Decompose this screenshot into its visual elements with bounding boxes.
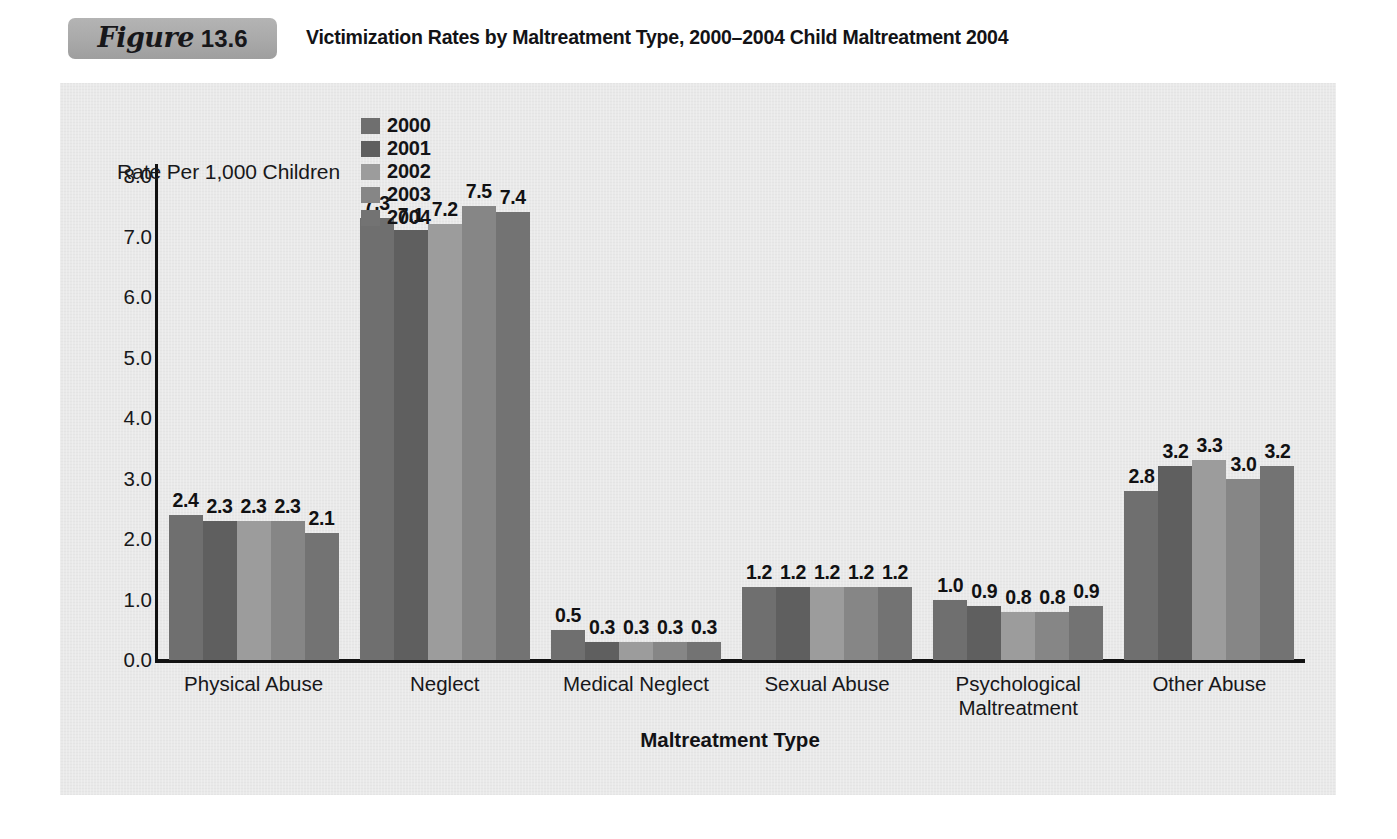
x-category-label-line: Other Abuse — [1152, 672, 1266, 695]
bar-2000-other-abuse[interactable]: 2.8 — [1124, 176, 1158, 660]
legend-item-2003[interactable]: 2003 — [361, 183, 431, 206]
bar-rect — [1124, 491, 1158, 660]
legend-item-2004[interactable]: 2004 — [361, 206, 431, 229]
legend-items: 20002001200220032004 — [361, 114, 450, 229]
bar-rect — [1035, 612, 1069, 660]
chart-panel: Rate Per 1,000 Children 2000200120022003… — [60, 83, 1336, 795]
bar-rect — [1192, 460, 1226, 660]
bar-2004-neglect[interactable]: 7.4 — [496, 176, 530, 660]
legend-item-2001[interactable]: 2001 — [361, 137, 431, 160]
x-category-label-line: Sexual Abuse — [764, 672, 889, 695]
bar-value-label: 2.4 — [173, 489, 199, 512]
legend-label: 2000 — [387, 114, 431, 137]
bar-2001-physical-abuse[interactable]: 2.3 — [203, 176, 237, 660]
bar-rect — [271, 521, 305, 660]
bar-2003-psychological-maltreatment[interactable]: 0.8 — [1035, 176, 1069, 660]
bar-rect — [496, 212, 530, 660]
legend-label: 2003 — [387, 183, 431, 206]
bar-rect — [1001, 612, 1035, 660]
x-category-label-line: Neglect — [410, 672, 480, 695]
bar-rect — [653, 642, 687, 660]
bar-value-label: 1.2 — [746, 561, 772, 584]
bar-rect — [428, 224, 462, 660]
x-category-label-line: Physical Abuse — [184, 672, 323, 695]
bar-2001-psychological-maltreatment[interactable]: 0.9 — [967, 176, 1001, 660]
bar-value-label: 2.3 — [207, 495, 233, 518]
bar-2004-psychological-maltreatment[interactable]: 0.9 — [1069, 176, 1103, 660]
legend-swatch-icon — [361, 164, 380, 180]
bar-2003-medical-neglect[interactable]: 0.3 — [653, 176, 687, 660]
figure-word-label: Figure — [97, 22, 193, 53]
bar-2001-medical-neglect[interactable]: 0.3 — [585, 176, 619, 660]
bar-rect — [203, 521, 237, 660]
bar-2003-sexual-abuse[interactable]: 1.2 — [844, 176, 878, 660]
bar-value-label: 0.8 — [1005, 586, 1031, 609]
bar-2004-other-abuse[interactable]: 3.2 — [1260, 176, 1294, 660]
bar-2000-psychological-maltreatment[interactable]: 1.0 — [933, 176, 967, 660]
bar-rect — [742, 587, 776, 660]
legend-item-2000[interactable]: 2000 — [361, 114, 431, 137]
bar-rect — [1158, 466, 1192, 660]
y-tick-label: 5.0 — [82, 346, 152, 370]
x-category-label-line: Maltreatment — [958, 696, 1078, 719]
bar-group: 0.50.30.30.30.3Medical Neglect — [551, 176, 721, 660]
legend-item-2002[interactable]: 2002 — [361, 160, 431, 183]
bar-2002-sexual-abuse[interactable]: 1.2 — [810, 176, 844, 660]
bar-2004-medical-neglect[interactable]: 0.3 — [687, 176, 721, 660]
y-tick-label: 3.0 — [82, 467, 152, 491]
bar-rect — [810, 587, 844, 660]
bar-value-label: 0.5 — [555, 604, 581, 627]
bar-2001-sexual-abuse[interactable]: 1.2 — [776, 176, 810, 660]
bar-value-label: 3.3 — [1196, 434, 1222, 457]
bar-group: 1.00.90.80.80.9PsychologicalMaltreatment — [933, 176, 1103, 660]
bar-value-label: 1.2 — [882, 561, 908, 584]
bar-2003-other-abuse[interactable]: 3.0 — [1226, 176, 1260, 660]
bar-2004-physical-abuse[interactable]: 2.1 — [305, 176, 339, 660]
bar-value-label: 2.1 — [309, 507, 335, 530]
bar-2001-neglect[interactable]: 7.1 — [394, 176, 428, 660]
y-tick-label: 4.0 — [82, 406, 152, 430]
figure-badge: Figure 13.6 — [68, 18, 277, 59]
bar-2002-medical-neglect[interactable]: 0.3 — [619, 176, 653, 660]
y-tick-label: 1.0 — [82, 588, 152, 612]
bar-value-label: 1.0 — [937, 574, 963, 597]
y-tick-label: 0.0 — [82, 648, 152, 672]
bar-rect — [462, 206, 496, 660]
bar-group: 1.21.21.21.21.2Sexual Abuse — [742, 176, 912, 660]
x-category-label-line: Psychological — [956, 672, 1081, 695]
bar-value-label: 0.3 — [691, 616, 717, 639]
plot-area: 8.07.06.05.04.03.02.01.00.0 2.42.32.32.3… — [155, 176, 1305, 660]
bar-rect — [551, 630, 585, 660]
bar-2000-neglect[interactable]: 7.3 — [360, 176, 394, 660]
bar-2001-other-abuse[interactable]: 3.2 — [1158, 176, 1192, 660]
bar-2003-physical-abuse[interactable]: 2.3 — [271, 176, 305, 660]
x-axis-title: Maltreatment Type — [155, 728, 1305, 752]
x-category-label: Other Abuse — [1152, 672, 1266, 696]
bar-value-label: 1.2 — [814, 561, 840, 584]
bar-value-label: 0.9 — [971, 580, 997, 603]
bar-value-label: 0.3 — [589, 616, 615, 639]
bar-value-label: 0.3 — [657, 616, 683, 639]
legend-label: 2004 — [387, 206, 431, 229]
x-category-label: Physical Abuse — [184, 672, 323, 696]
bar-2002-neglect[interactable]: 7.2 — [428, 176, 462, 660]
bar-value-label: 3.2 — [1264, 440, 1290, 463]
bar-2004-sexual-abuse[interactable]: 1.2 — [878, 176, 912, 660]
bars-layer: 2.42.32.32.32.1Physical Abuse7.37.17.27.… — [158, 176, 1305, 660]
bar-rect — [1226, 479, 1260, 661]
bar-value-label: 1.2 — [780, 561, 806, 584]
bar-value-label: 3.2 — [1162, 440, 1188, 463]
bar-2000-physical-abuse[interactable]: 2.4 — [169, 176, 203, 660]
bar-2002-other-abuse[interactable]: 3.3 — [1192, 176, 1226, 660]
bar-rect — [394, 230, 428, 660]
legend-label: 2001 — [387, 137, 431, 160]
bar-2000-medical-neglect[interactable]: 0.5 — [551, 176, 585, 660]
bar-2000-sexual-abuse[interactable]: 1.2 — [742, 176, 776, 660]
bar-2002-physical-abuse[interactable]: 2.3 — [237, 176, 271, 660]
bar-2002-psychological-maltreatment[interactable]: 0.8 — [1001, 176, 1035, 660]
bar-rect — [305, 533, 339, 660]
x-category-label: Neglect — [410, 672, 480, 696]
y-tick-label: 2.0 — [82, 527, 152, 551]
legend-swatch-icon — [361, 141, 380, 157]
bar-2003-neglect[interactable]: 7.5 — [462, 176, 496, 660]
